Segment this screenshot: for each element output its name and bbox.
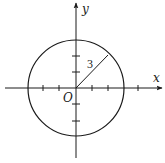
- radius-label: 3: [87, 57, 93, 71]
- y-axis-label: y: [81, 2, 89, 16]
- x-axis-label: x: [153, 71, 160, 85]
- origin-label: O: [63, 91, 73, 105]
- coordinate-diagram: 3 x y O: [0, 0, 165, 163]
